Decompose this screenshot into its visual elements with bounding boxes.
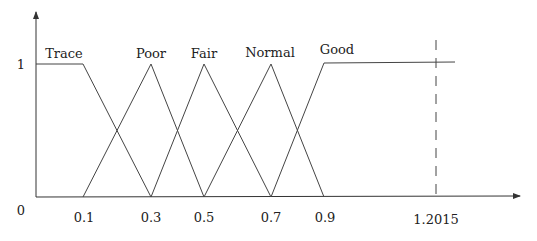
y-tick-1: 1: [17, 58, 25, 71]
x-tick-0.1: 0.1: [74, 211, 95, 224]
x-tick-0.3: 0.3: [141, 211, 162, 224]
x-tick-0.9: 0.9: [315, 211, 336, 224]
label-poor: Poor: [136, 47, 166, 60]
x-tick-0.7: 0.7: [261, 211, 282, 224]
fair-curve: [151, 64, 271, 197]
normal-curve: [204, 64, 324, 197]
good-curve: [271, 62, 455, 197]
label-trace: Trace: [45, 47, 83, 60]
label-fair: Fair: [191, 47, 217, 60]
poor-curve: [83, 64, 204, 197]
membership-function-plot: [0, 0, 537, 241]
y-tick-0: 0: [17, 204, 25, 217]
x-tick-0.5: 0.5: [194, 211, 215, 224]
x-tick-1.2015: 1.2015: [413, 213, 459, 226]
label-good: Good: [320, 43, 354, 56]
x-axis: [36, 196, 520, 197]
label-normal: Normal: [245, 46, 295, 59]
